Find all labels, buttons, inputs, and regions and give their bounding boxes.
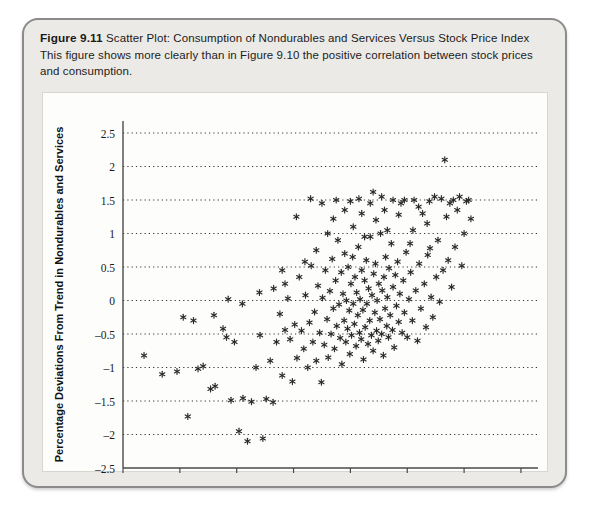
- data-point: [385, 227, 390, 233]
- data-point: [347, 351, 352, 357]
- data-point: [310, 339, 315, 345]
- data-point: [160, 371, 165, 377]
- data-point: [361, 356, 366, 362]
- data-point: [374, 328, 379, 334]
- data-point: [366, 285, 371, 291]
- data-point: [331, 306, 336, 312]
- data-point: [312, 309, 317, 315]
- data-point: [342, 251, 347, 257]
- data-point: [317, 330, 322, 336]
- data-point: [373, 217, 378, 223]
- data-point: [368, 234, 373, 240]
- data-point: [371, 189, 376, 195]
- data-point: [208, 386, 213, 392]
- data-point: [468, 216, 473, 222]
- data-point: [417, 261, 422, 267]
- data-point: [271, 285, 276, 291]
- data-point: [280, 373, 285, 379]
- data-point: [379, 194, 384, 200]
- data-point: [268, 358, 273, 364]
- data-point: [307, 320, 312, 326]
- data-point: [330, 256, 335, 262]
- y-tick-label: –1: [103, 362, 116, 374]
- data-point: [427, 198, 432, 204]
- y-tick-label: 0.5: [101, 262, 116, 274]
- data-point: [372, 310, 377, 316]
- data-point: [332, 346, 337, 352]
- data-point: [336, 302, 341, 308]
- data-point: [314, 247, 319, 253]
- data-point: [340, 291, 345, 297]
- data-point: [314, 358, 319, 364]
- data-point: [350, 254, 355, 260]
- data-point: [257, 289, 262, 295]
- data-point: [368, 200, 373, 206]
- data-point: [141, 352, 146, 358]
- data-point: [346, 264, 351, 270]
- data-point: [356, 196, 361, 202]
- data-point: [323, 267, 328, 273]
- data-point: [432, 194, 437, 200]
- data-point: [357, 296, 362, 302]
- data-point: [423, 324, 428, 330]
- data-point: [377, 316, 382, 322]
- data-point: [437, 299, 442, 305]
- data-point: [385, 294, 390, 300]
- data-point: [322, 342, 327, 348]
- data-point: [228, 397, 233, 403]
- data-point: [382, 207, 387, 213]
- figure-caption: Figure 9.11 Scatter Plot: Consumption of…: [40, 30, 548, 79]
- data-point: [260, 436, 265, 442]
- data-point: [407, 241, 412, 247]
- data-point: [383, 254, 388, 260]
- data-point: [410, 227, 415, 233]
- data-point: [308, 196, 313, 202]
- data-point: [303, 292, 308, 298]
- data-point: [240, 301, 245, 307]
- data-point: [344, 298, 349, 304]
- data-point: [327, 288, 332, 294]
- data-point: [355, 312, 360, 318]
- data-point: [367, 318, 372, 324]
- data-point: [369, 292, 374, 298]
- data-point: [335, 237, 340, 243]
- data-point: [371, 271, 376, 277]
- y-tick-label: –0.5: [94, 329, 115, 341]
- data-point: [404, 249, 409, 255]
- data-point: [360, 307, 365, 313]
- data-point: [376, 338, 381, 344]
- data-point: [319, 379, 324, 385]
- data-point: [363, 324, 368, 330]
- figure-title: Scatter Plot: Consumption of Nondurables…: [106, 32, 529, 44]
- data-point: [408, 269, 413, 275]
- data-point: [280, 267, 285, 273]
- data-point: [392, 344, 397, 350]
- data-point: [236, 428, 241, 434]
- data-point: [388, 312, 393, 318]
- data-point: [396, 319, 401, 325]
- data-point: [369, 332, 374, 338]
- data-point: [282, 281, 287, 287]
- data-point: [274, 339, 279, 345]
- data-point: [375, 298, 380, 304]
- data-point: [185, 413, 190, 419]
- data-point: [446, 257, 451, 263]
- data-point: [212, 383, 217, 389]
- data-point: [288, 336, 293, 342]
- data-point: [347, 308, 352, 314]
- data-point: [395, 259, 400, 265]
- data-point: [396, 212, 401, 218]
- data-point: [319, 200, 324, 206]
- data-point: [380, 287, 385, 293]
- data-point: [301, 346, 306, 352]
- data-point: [457, 194, 462, 200]
- figure-description: This figure shows more clearly than in F…: [40, 47, 548, 79]
- data-point: [174, 369, 179, 375]
- data-point: [359, 336, 364, 342]
- data-point: [435, 237, 440, 243]
- y-axis-title: Percentage Deviations From Trend in Nond…: [53, 127, 65, 463]
- data-point: [245, 438, 250, 444]
- data-point: [290, 379, 295, 385]
- data-point: [338, 335, 343, 341]
- data-point: [362, 277, 367, 283]
